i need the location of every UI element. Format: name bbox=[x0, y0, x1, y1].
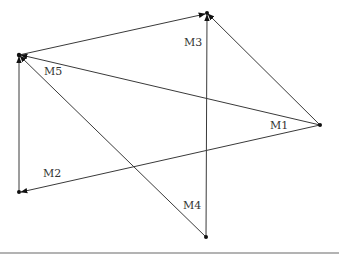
node-b bbox=[205, 11, 209, 15]
edge-c-to-b bbox=[208, 14, 320, 125]
edge-e-to-b-m3 bbox=[206, 15, 207, 237]
label-m1: M1 bbox=[270, 119, 288, 132]
label-m5: M5 bbox=[44, 65, 62, 78]
label-m4: M4 bbox=[183, 199, 201, 212]
vector-diagram: M3 M1 M5 M2 M4 bbox=[0, 0, 339, 257]
node-c bbox=[318, 123, 322, 127]
edge-e-to-a-m4-m5 bbox=[20, 56, 206, 237]
label-m2: M2 bbox=[43, 167, 61, 180]
edge-a-to-b bbox=[19, 14, 205, 55]
edge-c-to-d-m2 bbox=[21, 125, 320, 192]
node-d bbox=[17, 190, 21, 194]
node-a bbox=[17, 53, 21, 57]
label-m3: M3 bbox=[184, 36, 202, 49]
node-e bbox=[204, 235, 208, 239]
edge-c-to-a-m1 bbox=[21, 55, 320, 125]
